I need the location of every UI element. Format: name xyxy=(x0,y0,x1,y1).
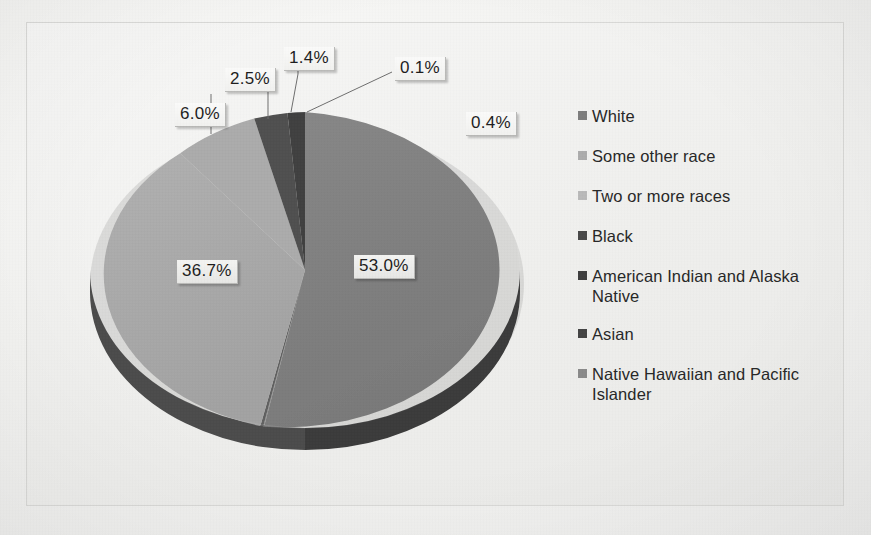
value-label-native-hawaiian: 0.1% xyxy=(395,57,446,81)
legend-item-american-indian[interactable]: American Indian and Alaska Native xyxy=(578,266,840,306)
legend-item-two-or-more-races[interactable]: Two or more races xyxy=(578,186,840,206)
legend-label-two-or-more-races: Two or more races xyxy=(592,186,730,206)
legend-label-black: Black xyxy=(592,226,633,246)
legend-item-asian[interactable]: Asian xyxy=(578,324,840,344)
chart-legend: White Some other race Two or more races … xyxy=(578,106,840,424)
legend-label-native-hawaiian: Native Hawaiian and Pacific Islander xyxy=(592,364,840,404)
legend-swatch-white xyxy=(578,111,587,120)
value-label-some-other-race: 36.7% xyxy=(177,260,238,284)
legend-swatch-black xyxy=(578,231,587,240)
value-label-two-or-more-races: 6.0% xyxy=(175,103,226,127)
legend-swatch-american-indian xyxy=(578,271,587,280)
legend-swatch-native-hawaiian xyxy=(578,369,587,378)
leader-native-hawaiian xyxy=(307,72,392,112)
legend-swatch-asian xyxy=(578,329,587,338)
chart-page: 6.0% 2.5% 1.4% 0.1% 0.4% 53.0% 36.7% Whi… xyxy=(0,0,871,535)
legend-label-american-indian: American Indian and Alaska Native xyxy=(592,266,840,306)
legend-item-white[interactable]: White xyxy=(578,106,840,126)
value-label-black: 2.5% xyxy=(225,68,276,92)
legend-item-black[interactable]: Black xyxy=(578,226,840,246)
legend-label-some-other-race: Some other race xyxy=(592,146,715,166)
legend-swatch-some-other-race xyxy=(578,151,587,160)
value-label-asian: 0.4% xyxy=(466,112,517,136)
value-label-white: 53.0% xyxy=(354,255,415,279)
legend-item-some-other-race[interactable]: Some other race xyxy=(578,146,840,166)
legend-label-asian: Asian xyxy=(592,324,634,344)
pie-3d-body xyxy=(90,112,520,450)
legend-swatch-two-or-more-races xyxy=(578,191,587,200)
value-label-american-indian: 1.4% xyxy=(284,47,335,71)
legend-item-native-hawaiian[interactable]: Native Hawaiian and Pacific Islander xyxy=(578,364,840,404)
legend-label-white: White xyxy=(592,106,635,126)
